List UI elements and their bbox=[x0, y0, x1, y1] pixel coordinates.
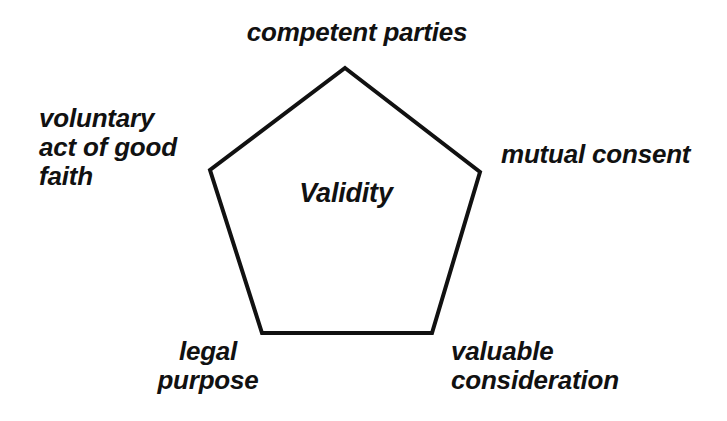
label-mutual-consent: mutual consent bbox=[501, 140, 690, 169]
label-valuable-consideration: valuable consideration bbox=[451, 337, 619, 395]
label-validity-center: Validity bbox=[210, 178, 482, 208]
label-voluntary-act-of-good-faith: voluntary act of good faith bbox=[39, 104, 177, 191]
label-legal-purpose: legal purpose bbox=[118, 337, 298, 395]
label-competent-parties: competent parties bbox=[0, 18, 714, 47]
diagram-canvas: competent parties voluntary act of good … bbox=[0, 0, 727, 421]
